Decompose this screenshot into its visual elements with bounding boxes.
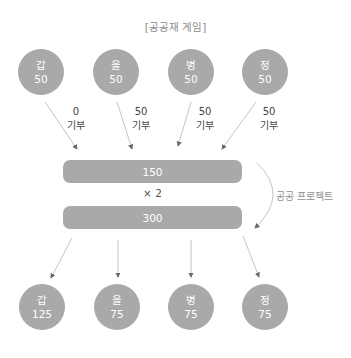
pool-result: 300 bbox=[142, 212, 162, 224]
player-name: 정 bbox=[260, 293, 270, 307]
player-name: 갑 bbox=[36, 58, 46, 72]
player-node-gap-after: 갑 125 bbox=[19, 284, 65, 330]
arrow-project-curve bbox=[255, 163, 273, 228]
arrow-jeong-payout bbox=[243, 236, 259, 277]
contribution-jeong: 50 기부 bbox=[254, 105, 284, 133]
contribution-label: 기부 bbox=[126, 119, 156, 133]
multiplier-label: × 2 bbox=[63, 187, 242, 199]
player-value: 125 bbox=[32, 307, 52, 321]
player-value: 50 bbox=[258, 72, 271, 86]
arrow-gap-payout bbox=[51, 238, 72, 278]
player-name: 병 bbox=[186, 293, 196, 307]
player-value: 50 bbox=[184, 72, 197, 86]
contribution-label: 기부 bbox=[190, 119, 220, 133]
contribution-amount: 50 bbox=[126, 105, 156, 119]
player-node-eul-after: 을 75 bbox=[94, 284, 140, 330]
player-node-byeong-before: 병 50 bbox=[168, 49, 214, 95]
player-node-gap-before: 갑 50 bbox=[18, 49, 64, 95]
contribution-eul: 50 기부 bbox=[126, 105, 156, 133]
contribution-byeong: 50 기부 bbox=[190, 105, 220, 133]
contribution-amount: 50 bbox=[254, 105, 284, 119]
contribution-label: 기부 bbox=[254, 119, 284, 133]
pool-total: 150 bbox=[142, 166, 162, 178]
player-value: 75 bbox=[184, 307, 197, 321]
player-name: 갑 bbox=[37, 293, 47, 307]
player-value: 50 bbox=[109, 72, 122, 86]
player-value: 75 bbox=[110, 307, 123, 321]
contribution-label: 기부 bbox=[61, 119, 91, 133]
player-node-jeong-before: 정 50 bbox=[242, 49, 288, 95]
player-node-jeong-after: 정 75 bbox=[242, 284, 288, 330]
arrow-jeong-contribution bbox=[222, 102, 256, 149]
player-name: 병 bbox=[186, 58, 196, 72]
player-name: 을 bbox=[111, 58, 121, 72]
pool-result-bar: 300 bbox=[63, 206, 242, 229]
public-project-label: 공공 프로젝트 bbox=[276, 188, 333, 203]
player-value: 75 bbox=[258, 307, 271, 321]
contribution-gap: 0 기부 bbox=[61, 105, 91, 133]
contribution-amount: 0 bbox=[61, 105, 91, 119]
player-name: 정 bbox=[260, 58, 270, 72]
player-node-byeong-after: 병 75 bbox=[168, 284, 214, 330]
contribution-amount: 50 bbox=[190, 105, 220, 119]
player-name: 을 bbox=[112, 293, 122, 307]
pool-total-bar: 150 bbox=[63, 160, 242, 183]
player-value: 50 bbox=[34, 72, 47, 86]
player-node-eul-before: 을 50 bbox=[93, 49, 139, 95]
diagram-title: [공공재 게임] bbox=[0, 19, 351, 34]
